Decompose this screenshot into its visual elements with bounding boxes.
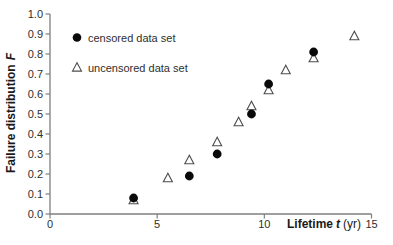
y-tick-label: 0.5 (28, 108, 43, 120)
x-tick-label: 10 (258, 218, 270, 230)
censored-point (264, 80, 273, 89)
x-tick-label: 0 (47, 218, 53, 230)
y-tick-label: 0.9 (28, 28, 43, 40)
censored-point (185, 172, 194, 181)
y-tick-label: 1.0 (28, 8, 43, 20)
legend-uncensored-triangle-icon (73, 63, 82, 71)
censored-point (129, 194, 138, 203)
y-axis-title: Failure distributionF (4, 52, 18, 173)
figure-canvas: 0.00.10.20.30.40.50.60.70.80.91.0 051015… (0, 0, 393, 245)
censored-point (309, 48, 318, 57)
legend-censored-label: censored data set (88, 32, 175, 44)
y-tick-label: 0.0 (28, 208, 43, 220)
y-tick-label: 0.6 (28, 88, 43, 100)
y-axis: 0.00.10.20.30.40.50.60.70.80.91.0 (28, 8, 50, 220)
uncensored-point (281, 65, 290, 74)
y-tick-label: 0.2 (28, 168, 43, 180)
x-axis-title: Lifetimet(yr) (287, 217, 361, 231)
x-tick-label: 5 (154, 218, 160, 230)
uncensored-point (234, 117, 243, 126)
uncensored-point (247, 101, 256, 110)
uncensored-point (213, 137, 222, 146)
censored-point (247, 110, 256, 119)
legend-uncensored-label: uncensored data set (88, 62, 188, 74)
y-axis-ticks: 0.00.10.20.30.40.50.60.70.80.91.0 (28, 8, 50, 220)
scatter-chart: 0.00.10.20.30.40.50.60.70.80.91.0 051015… (0, 0, 393, 245)
uncensored-point (185, 155, 194, 164)
data-points (129, 31, 359, 204)
uncensored-point (350, 31, 359, 40)
censored-point (213, 150, 222, 159)
uncensored-point (163, 173, 172, 182)
legend-censored-circle-icon (73, 33, 82, 42)
x-tick-label: 15 (365, 218, 377, 230)
y-tick-label: 0.7 (28, 68, 43, 80)
chart-legend: censored data set uncensored data set (73, 32, 188, 74)
y-tick-label: 0.4 (28, 128, 43, 140)
y-tick-label: 0.3 (28, 148, 43, 160)
y-tick-label: 0.8 (28, 48, 43, 60)
y-tick-label: 0.1 (28, 188, 43, 200)
